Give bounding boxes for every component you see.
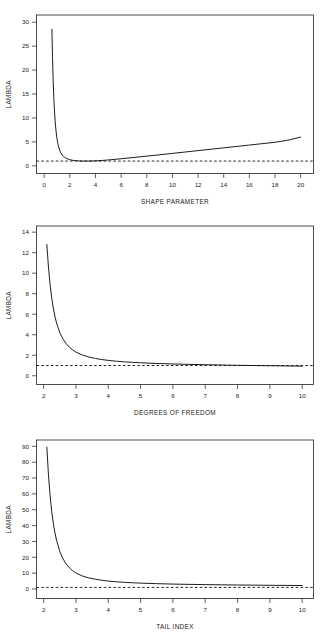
x-axis-tick-label: 7 (203, 392, 207, 399)
x-axis-tick-label: 8 (236, 606, 240, 613)
x-axis-tick-label: 16 (246, 181, 253, 188)
x-axis-tick-label: 4 (107, 606, 111, 613)
x-axis-tick-label: 4 (94, 181, 98, 188)
x-axis-tick-label: 2 (42, 392, 46, 399)
plot-box (37, 15, 314, 174)
x-axis-title: TAIL INDEX (156, 623, 194, 630)
x-axis-tick-label: 6 (171, 392, 175, 399)
y-axis-tick-label: 4 (26, 331, 30, 338)
x-axis-tick-label: 10 (299, 606, 306, 613)
x-axis-tick-label: 2 (68, 181, 72, 188)
x-axis-tick-label: 10 (169, 181, 176, 188)
y-axis-tick-label: 30 (22, 538, 29, 545)
y-axis-tick-label: 12 (22, 249, 29, 256)
x-axis-tick-label: 0 (42, 181, 46, 188)
y-axis-tick-label: 90 (22, 443, 29, 450)
x-axis-tick-label: 3 (74, 392, 78, 399)
x-axis-tick-label: 12 (195, 181, 202, 188)
x-axis-tick-label: 8 (145, 181, 149, 188)
x-axis-tick-label: 9 (268, 606, 272, 613)
y-axis-tick-label: 15 (22, 90, 29, 97)
x-axis-title: DEGREES OF FREEDOM (134, 409, 216, 416)
y-axis-tick-label: 25 (22, 42, 29, 49)
y-axis-tick-label: 30 (22, 18, 29, 25)
x-axis-tick-label: 7 (203, 606, 207, 613)
y-axis-tick-label: 0 (26, 585, 30, 592)
x-axis-tick-label: 2 (42, 606, 46, 613)
x-axis-tick-label: 4 (107, 392, 111, 399)
data-curve (52, 29, 301, 161)
y-axis-tick-label: 60 (22, 490, 29, 497)
y-axis-title: LAMBDA (5, 505, 12, 534)
x-axis-tick-label: 5 (139, 606, 143, 613)
chart-panel-tail-index: 23456789100102030405060708090LAMBDATAIL … (0, 426, 326, 639)
y-axis-tick-label: 6 (26, 311, 30, 318)
plot-box (37, 226, 314, 385)
y-axis-tick-label: 14 (22, 228, 29, 235)
y-axis-tick-label: 10 (22, 569, 29, 576)
chart-panel-degrees-of-freedom: 234567891002468101214LAMBDADEGREES OF FR… (0, 213, 326, 426)
y-axis-tick-label: 70 (22, 474, 29, 481)
x-axis-tick-label: 5 (139, 392, 143, 399)
y-axis-tick-label: 8 (26, 290, 30, 297)
y-axis-tick-label: 5 (26, 138, 30, 145)
plot-box (37, 440, 314, 599)
y-axis-tick-label: 40 (22, 522, 29, 529)
x-axis-tick-label: 6 (171, 606, 175, 613)
y-axis-tick-label: 10 (22, 114, 29, 121)
y-axis-tick-label: 50 (22, 506, 29, 513)
chart-panel-shape-parameter: 02468101214161820051015202530LAMBDASHAPE… (0, 0, 326, 213)
x-axis-tick-label: 18 (272, 181, 279, 188)
x-axis-tick-label: 9 (268, 392, 272, 399)
x-axis-tick-label: 8 (236, 392, 240, 399)
x-axis-title: SHAPE PARAMETER (141, 198, 209, 205)
y-axis-tick-label: 2 (26, 352, 30, 359)
x-axis-tick-label: 3 (74, 606, 78, 613)
y-axis-tick-label: 0 (26, 372, 30, 379)
multi-panel-figure: 02468101214161820051015202530LAMBDASHAPE… (0, 0, 326, 640)
x-axis-tick-label: 20 (297, 181, 304, 188)
data-curve (47, 244, 302, 366)
y-axis-tick-label: 20 (22, 66, 29, 73)
y-axis-title: LAMBDA (5, 80, 12, 109)
x-axis-tick-label: 10 (299, 392, 306, 399)
y-axis-tick-label: 10 (22, 269, 29, 276)
x-axis-tick-label: 6 (119, 181, 123, 188)
data-curve (47, 447, 302, 585)
y-axis-tick-label: 20 (22, 554, 29, 561)
y-axis-title: LAMBDA (5, 291, 12, 320)
y-axis-tick-label: 80 (22, 458, 29, 465)
x-axis-tick-label: 14 (220, 181, 227, 188)
y-axis-tick-label: 0 (26, 162, 30, 169)
